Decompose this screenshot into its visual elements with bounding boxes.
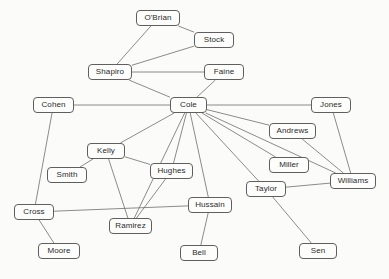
node-jones[interactable]: Jones [311, 97, 351, 113]
node-label: Shapiro [96, 68, 124, 76]
node-label: Andrews [277, 127, 309, 135]
node-cross[interactable]: Cross [14, 204, 54, 220]
node-label: Cohen [41, 101, 65, 109]
node-label: Smith [57, 171, 78, 179]
node-cole[interactable]: Cole [170, 97, 207, 113]
node-label: Faine [214, 68, 235, 76]
node-stock[interactable]: Stock [194, 32, 234, 48]
node-moore[interactable]: Moore [38, 243, 80, 259]
node-hussain[interactable]: Hussain [188, 197, 232, 213]
node-label: Taylor [255, 185, 277, 193]
node-label: Miller [279, 161, 299, 169]
node-bell[interactable]: Bell [180, 245, 218, 261]
node-label: Hughes [157, 167, 185, 175]
node-label: Stock [204, 36, 225, 44]
node-label: Cole [180, 101, 197, 109]
node-label: Moore [47, 247, 70, 255]
node-shapiro[interactable]: Shapiro [88, 64, 132, 80]
node-label: Jones [320, 101, 342, 109]
node-label: Hussain [195, 201, 225, 209]
node-hughes[interactable]: Hughes [150, 163, 193, 179]
node-label: Ramirez [115, 222, 145, 230]
node-andrews[interactable]: Andrews [269, 123, 316, 139]
node-faine[interactable]: Faine [204, 64, 244, 80]
node-sen[interactable]: Sen [299, 243, 337, 259]
node-label: Kelly [97, 147, 115, 155]
node-obrian[interactable]: O'Brian [136, 10, 180, 26]
node-kelly[interactable]: Kelly [87, 143, 125, 159]
node-cohen[interactable]: Cohen [33, 97, 74, 113]
node-label: Williams [338, 177, 369, 185]
node-taylor[interactable]: Taylor [246, 181, 286, 197]
node-label: Cross [23, 208, 44, 216]
node-ramirez[interactable]: Ramirez [109, 218, 152, 234]
node-miller[interactable]: Miller [269, 157, 309, 173]
network-diagram-canvas: O'BrianStockShapiroFaineCohenColeJonesAn… [0, 0, 389, 279]
node-williams[interactable]: Williams [330, 173, 376, 189]
node-label: Sen [311, 247, 326, 255]
node-label: Bell [192, 249, 206, 257]
node-smith[interactable]: Smith [47, 167, 87, 183]
node-layer: O'BrianStockShapiroFaineCohenColeJonesAn… [0, 0, 389, 279]
node-label: O'Brian [144, 14, 171, 22]
